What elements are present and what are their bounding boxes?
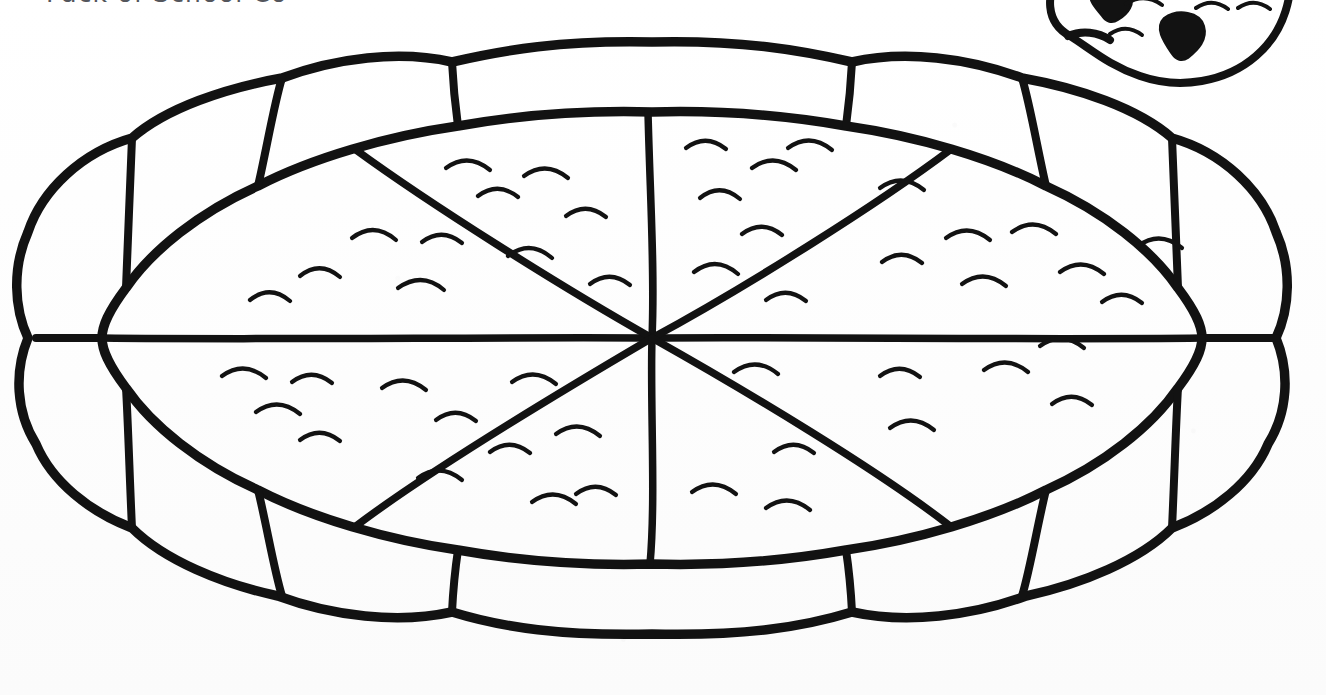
slice-line-up-right [652,150,950,338]
coloring-page-canvas: Pack of School Co [0,0,1326,695]
slice-line-right [652,338,1202,339]
slice-line-up-left [356,150,652,338]
pizza-slice-corner-motif [1050,0,1290,83]
slice-line-down-left [356,338,652,526]
slice-line-up [648,112,653,338]
slice-line-down-right [652,338,950,526]
slice-line-down [650,338,653,564]
pizza-line-art [0,0,1326,695]
pizza-topping-marks [222,140,1182,510]
slice-line-left [102,338,652,339]
